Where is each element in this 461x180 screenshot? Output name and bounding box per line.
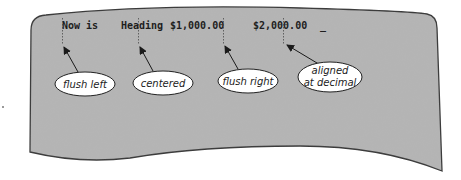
alignment-diagram: Now is Heading $1,000.00 $2,000.00 _ flu… <box>0 0 461 180</box>
callout-label: flush left <box>63 79 108 90</box>
callout-label-line1: aligned <box>312 65 350 76</box>
callout-centered: centered <box>133 71 193 95</box>
callout-flush-left: flush left <box>55 72 115 96</box>
text-flush-left: Now is <box>62 20 98 31</box>
callout-flush-right: flush right <box>218 69 278 93</box>
callout-label-line2: at decimal <box>304 77 357 88</box>
text-flush-right: $1,000.00 <box>170 20 224 31</box>
callout-label: centered <box>141 78 186 89</box>
callout-aligned-decimal: aligned at decimal <box>298 62 362 92</box>
text-centered: Heading <box>121 20 163 31</box>
text-cursor: _ <box>320 20 327 32</box>
text-aligned-decimal: $2,000.00 <box>253 20 307 31</box>
callout-label: flush right <box>222 76 274 87</box>
